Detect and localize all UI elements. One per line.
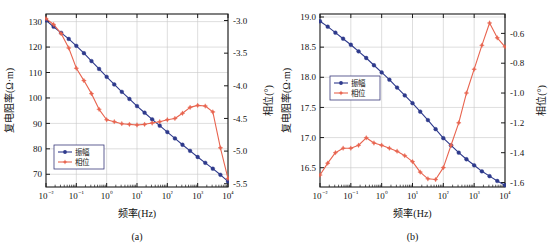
data-point — [395, 86, 399, 90]
legend-label: 振幅 — [351, 78, 366, 88]
y-tick-label: 18.5 — [300, 42, 316, 52]
data-point — [341, 37, 345, 41]
legend-label: 相位 — [75, 157, 90, 167]
chart-panel-a: 708090100110120130-3.0-3.5-4.0-4.5-5.0-5… — [0, 0, 280, 252]
y2-tick-label: -5.0 — [233, 146, 248, 156]
data-point — [165, 117, 170, 122]
y2-tick-label: -3.0 — [233, 16, 248, 26]
y-tick-label: 120 — [29, 42, 43, 52]
data-point — [218, 145, 223, 150]
x-tick-label: 10⁻² — [39, 190, 54, 201]
x-tick-label: 10⁰ — [376, 190, 388, 201]
data-point — [82, 78, 87, 83]
data-point — [211, 167, 215, 171]
x-tick-label: 10¹ — [132, 190, 143, 201]
data-point — [90, 59, 94, 63]
legend[interactable]: 振幅相位 — [54, 145, 104, 169]
y-tick-label: 70 — [33, 169, 43, 179]
y2-axis-label: 相位(°) — [535, 85, 548, 116]
data-point — [105, 75, 109, 79]
chart-svg-a: 708090100110120130-3.0-3.5-4.0-4.5-5.0-5… — [0, 0, 280, 252]
data-point — [188, 149, 192, 153]
data-point — [196, 155, 200, 159]
data-point — [82, 51, 86, 55]
data-point — [364, 56, 368, 60]
chart-svg-b: 16.517.017.518.018.519.0-0.6-0.8-1.0-1.2… — [280, 0, 553, 252]
data-point — [495, 179, 499, 183]
y-tick-label: 18.0 — [300, 72, 316, 82]
data-point — [441, 136, 445, 140]
data-point — [457, 151, 461, 155]
data-point — [127, 122, 132, 127]
y2-tick-label: -4.0 — [233, 81, 248, 91]
x-tick-label: 10⁻² — [313, 190, 328, 201]
data-point — [395, 149, 400, 154]
x-tick-label: 10¹ — [407, 190, 418, 201]
data-point — [472, 67, 477, 72]
data-point — [488, 174, 492, 178]
data-point — [89, 91, 94, 96]
y-tick-label: 80 — [33, 144, 43, 154]
y2-tick-label: -4.5 — [233, 114, 248, 124]
data-point — [349, 43, 353, 47]
y-tick-label: 130 — [29, 17, 43, 27]
data-point — [112, 83, 116, 87]
legend-marker — [339, 81, 343, 85]
x-tick-label: 10² — [438, 190, 449, 201]
data-point — [480, 169, 484, 173]
data-point — [334, 31, 338, 35]
data-point — [357, 49, 361, 53]
data-point — [128, 97, 132, 101]
data-point — [181, 143, 185, 147]
y-tick-label: 19.0 — [300, 12, 316, 22]
y-axis-label: 复电阻率(Ω·m) — [280, 68, 293, 133]
data-point — [372, 63, 376, 67]
data-point — [318, 19, 322, 23]
data-point — [348, 146, 353, 151]
data-point — [142, 122, 147, 127]
data-point — [472, 163, 476, 167]
x-tick-label: 10³ — [469, 190, 480, 201]
y2-tick-label: -1.2 — [510, 118, 524, 128]
data-point — [120, 90, 124, 94]
data-point — [165, 130, 169, 134]
data-point — [464, 91, 469, 96]
data-point — [326, 25, 330, 29]
x-tick-label: 10⁴ — [499, 190, 511, 201]
data-point — [219, 173, 223, 177]
data-point — [195, 103, 200, 108]
y2-tick-label: -5.5 — [233, 179, 248, 189]
y-tick-label: 110 — [29, 68, 43, 78]
data-point — [380, 71, 384, 75]
x-tick-label: 10⁴ — [222, 190, 234, 201]
x-axis-label: 频率(Hz) — [393, 207, 431, 220]
data-point — [487, 21, 492, 26]
data-point — [426, 118, 430, 122]
legend[interactable]: 振幅相位 — [330, 76, 380, 100]
data-point — [418, 110, 422, 114]
data-point — [434, 127, 438, 131]
data-point — [403, 93, 407, 97]
x-tick-label: 10³ — [192, 190, 203, 201]
data-point — [379, 143, 384, 148]
y2-tick-label: -1.6 — [510, 178, 525, 188]
y2-tick-label: -1.0 — [510, 88, 525, 98]
data-point — [387, 78, 391, 82]
y-tick-label: 90 — [33, 119, 43, 129]
x-tick-label: 10⁻¹ — [69, 190, 84, 201]
data-point — [67, 37, 71, 41]
data-point — [66, 46, 71, 51]
panel-caption: (a) — [131, 231, 142, 243]
data-point — [173, 137, 177, 141]
y2-tick-label: -1.4 — [510, 148, 525, 158]
y-tick-label: 100 — [29, 93, 43, 103]
data-point — [119, 121, 124, 126]
data-point — [503, 183, 507, 187]
x-tick-label: 10² — [162, 190, 173, 201]
y2-axis-label: 相位(°) — [262, 85, 275, 116]
data-point — [411, 101, 415, 105]
data-point — [456, 120, 461, 125]
y-axis-label: 复电阻率(Ω·m) — [3, 68, 16, 133]
x-tick-label: 10⁰ — [101, 190, 113, 201]
chart-panel-b: 16.517.017.518.018.519.0-0.6-0.8-1.0-1.2… — [280, 0, 553, 252]
